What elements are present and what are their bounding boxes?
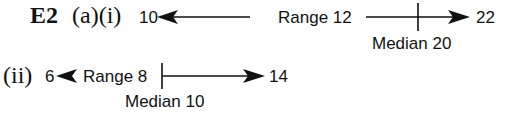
diagram-i-left-arrow-icon: [157, 10, 250, 24]
range-arrows-diagram: [0, 0, 513, 129]
diagram-ii-right-arrow-icon: [162, 69, 265, 83]
diagram-ii-left-arrow-icon: [56, 69, 77, 83]
